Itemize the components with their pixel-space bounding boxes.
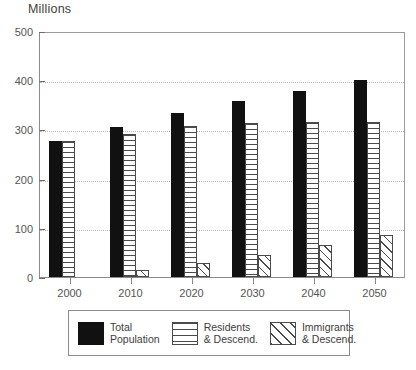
x-axis-tick-mark	[314, 278, 315, 284]
legend-label: Immigrants& Descend.	[302, 321, 356, 345]
x-axis-tick-label-2030: 2030	[240, 287, 264, 299]
diagonal-hatch-swatch	[270, 322, 296, 345]
bar-total-2020	[171, 113, 184, 277]
y-axis-tick-label: 500	[5, 26, 33, 38]
x-axis-tick-label-2000: 2000	[57, 287, 81, 299]
gridline	[40, 230, 404, 231]
y-axis-tick-label: 200	[5, 174, 33, 186]
y-axis-tick-labels: 0100200300400500	[0, 32, 33, 278]
y-axis-tick-label: 100	[5, 223, 33, 235]
legend-label: TotalPopulation	[110, 321, 160, 345]
legend-label-line2: Population	[110, 333, 160, 345]
bar-immigrants-2010	[136, 270, 149, 277]
x-axis-tick-label-2050: 2050	[362, 287, 386, 299]
y-axis-tick-mark	[39, 180, 45, 181]
bar-residents-2050	[367, 122, 380, 277]
legend-label-line2: & Descend.	[302, 333, 356, 345]
x-axis-tick-mark	[253, 278, 254, 284]
legend-entry-immigrants: Immigrants& Descend.	[270, 321, 356, 345]
y-axis-tick-mark	[39, 81, 45, 82]
legend-label-line1: Immigrants	[302, 321, 356, 333]
bar-immigrants-2030	[258, 255, 271, 277]
x-axis-tick-label-2020: 2020	[179, 287, 203, 299]
x-axis-tick-mark	[375, 278, 376, 284]
x-axis-tick-label-2010: 2010	[118, 287, 142, 299]
bar-total-2010	[110, 127, 123, 277]
bar-total-2050	[354, 80, 367, 277]
x-axis-tick-mark	[131, 278, 132, 284]
legend-label-line2: & Descend.	[204, 333, 258, 345]
bar-residents-2010	[123, 134, 136, 277]
bar-immigrants-2020	[197, 263, 210, 277]
horizontal-lines-swatch	[172, 322, 198, 345]
chart-legend: TotalPopulationResidents& Descend.Immigr…	[68, 310, 350, 356]
bar-residents-2020	[184, 126, 197, 277]
y-axis-tick-mark	[39, 130, 45, 131]
legend-entry-total: TotalPopulation	[78, 321, 160, 345]
gridline	[40, 131, 404, 132]
bar-residents-2040	[306, 122, 319, 277]
legend-label-line1: Residents	[204, 321, 258, 333]
bar-total-2030	[232, 101, 245, 277]
solid-black-swatch	[78, 322, 104, 345]
bar-immigrants-2050	[380, 235, 393, 277]
gridline	[40, 181, 404, 182]
plot-area	[39, 32, 405, 278]
y-axis-tick-mark	[39, 229, 45, 230]
y-axis-tick-label: 400	[5, 75, 33, 87]
x-axis-tick-mark	[192, 278, 193, 284]
y-axis-tick-mark	[39, 278, 45, 279]
legend-label-line1: Total	[110, 321, 160, 333]
x-axis-tick-mark	[70, 278, 71, 284]
bar-total-2000	[49, 141, 62, 277]
legend-entry-residents: Residents& Descend.	[172, 321, 258, 345]
legend-label: Residents& Descend.	[204, 321, 258, 345]
x-axis-tick-label-2040: 2040	[301, 287, 325, 299]
y-axis-tick-mark	[39, 32, 45, 33]
y-axis-unit-title: Millions	[28, 2, 71, 16]
y-axis-tick-label: 0	[5, 272, 33, 284]
gridline	[40, 82, 404, 83]
bar-residents-2000	[62, 141, 75, 277]
y-axis-tick-label: 300	[5, 124, 33, 136]
bar-total-2040	[293, 91, 306, 277]
bar-immigrants-2040	[319, 245, 332, 277]
bar-residents-2030	[245, 123, 258, 277]
